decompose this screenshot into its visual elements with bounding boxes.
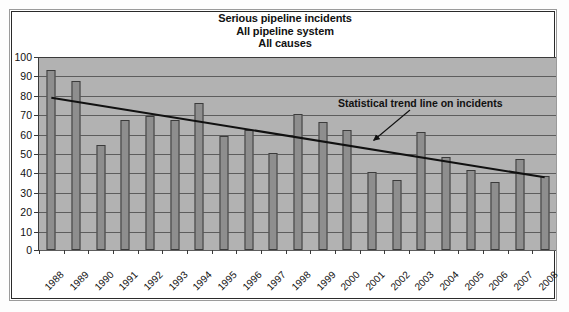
x-axis-label-1993: 1993: [166, 269, 190, 293]
x-axis-label-2001: 2001: [363, 269, 387, 293]
x-axis-label-2000: 2000: [339, 269, 363, 293]
x-axis-label-1997: 1997: [265, 269, 289, 293]
plot-area-wrapper: 0102030405060708090100: [38, 57, 556, 251]
y-axis-label-100: 100: [14, 51, 32, 63]
y-axis-label-80: 80: [20, 90, 32, 102]
y-axis-label-0: 0: [26, 244, 32, 256]
y-axis-label-10: 10: [20, 226, 32, 238]
x-axis-label-1995: 1995: [215, 269, 239, 293]
x-axis-label-2002: 2002: [388, 269, 412, 293]
y-axis-label-40: 40: [20, 167, 32, 179]
x-axis-label-2005: 2005: [462, 269, 486, 293]
x-axis-label-1989: 1989: [67, 269, 91, 293]
chart-title-line-2: All pipeline system: [60, 25, 510, 38]
chart-title-line-3: All causes: [60, 37, 510, 50]
x-axis-label-1999: 1999: [314, 269, 338, 293]
chart-title-line-1: Serious pipeline incidents: [60, 12, 510, 25]
y-axis-label-50: 50: [20, 148, 32, 160]
x-axis-label-2003: 2003: [413, 269, 437, 293]
x-axis-label-1992: 1992: [141, 269, 165, 293]
plot-area: 0102030405060708090100: [38, 57, 556, 251]
x-axis-label-1988: 1988: [43, 269, 67, 293]
x-axis-label-1994: 1994: [191, 269, 215, 293]
x-axis-label-2004: 2004: [437, 269, 461, 293]
x-axis-label-1990: 1990: [92, 269, 116, 293]
x-axis-label-1991: 1991: [117, 269, 141, 293]
x-axis-label-1996: 1996: [240, 269, 264, 293]
y-axis-label-70: 70: [20, 109, 32, 121]
x-axis-labels: 1988198919901991199219931994199519961997…: [38, 253, 556, 303]
x-axis-label-2007: 2007: [511, 269, 535, 293]
trend-line-annotation-label: Statistical trend line on incidents: [338, 97, 503, 109]
chart-screenshot: Serious pipeline incidents All pipeline …: [0, 0, 569, 312]
y-axis-label-30: 30: [20, 187, 32, 199]
y-axis-label-90: 90: [20, 70, 32, 82]
x-axis-label-1998: 1998: [289, 269, 313, 293]
x-axis-label-2008: 2008: [536, 269, 560, 293]
chart-title: Serious pipeline incidents All pipeline …: [60, 12, 510, 50]
x-axis-label-2006: 2006: [487, 269, 511, 293]
y-axis-label-60: 60: [20, 129, 32, 141]
y-axis-label-20: 20: [20, 206, 32, 218]
trend-line: [39, 57, 557, 251]
